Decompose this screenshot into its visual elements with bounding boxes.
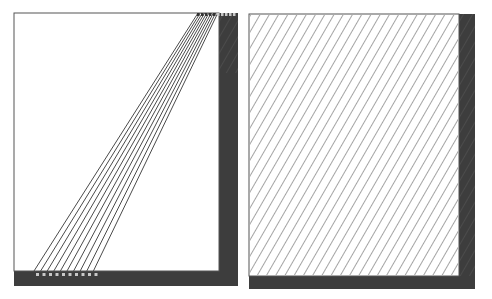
marker-dot bbox=[201, 13, 204, 16]
marker-dot bbox=[43, 273, 46, 276]
right-panel bbox=[249, 14, 475, 289]
marker-dot bbox=[49, 273, 52, 276]
marker-dot bbox=[62, 273, 65, 276]
left-panel bbox=[14, 13, 238, 286]
marker-dot bbox=[233, 13, 236, 16]
left-dark-bottom-border bbox=[14, 271, 238, 286]
marker-dot bbox=[75, 273, 78, 276]
marker-dot bbox=[95, 273, 98, 276]
marker-dot bbox=[213, 13, 216, 16]
marker-dot bbox=[225, 13, 228, 16]
marker-dot bbox=[229, 13, 232, 16]
marker-dot bbox=[205, 13, 208, 16]
marker-dot bbox=[56, 273, 59, 276]
marker-dot bbox=[209, 13, 212, 16]
right-hatch-fill bbox=[250, 15, 458, 275]
right-dark-right-hatch bbox=[459, 14, 475, 289]
marker-dot bbox=[217, 13, 220, 16]
marker-dot bbox=[197, 13, 200, 16]
left-dark-right-hatch bbox=[219, 13, 238, 73]
marker-dot bbox=[82, 273, 85, 276]
marker-dot bbox=[36, 273, 39, 276]
marker-dot bbox=[69, 273, 72, 276]
marker-dot bbox=[221, 13, 224, 16]
diagram-canvas bbox=[0, 0, 492, 299]
marker-dot bbox=[88, 273, 91, 276]
right-dark-bottom-border bbox=[249, 276, 475, 289]
